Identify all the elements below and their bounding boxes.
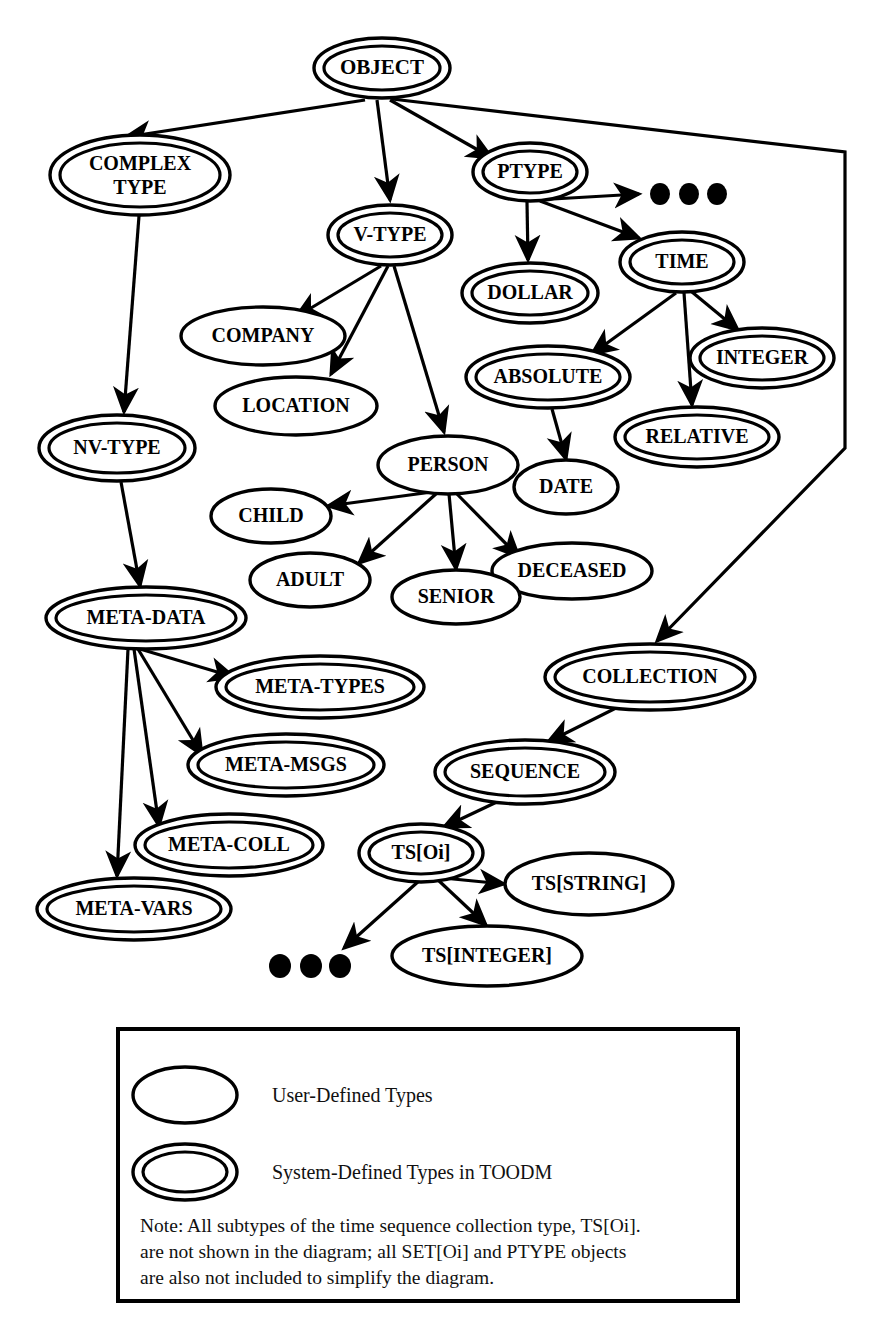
legend-symbol-ellipse [133, 1067, 237, 1123]
legend-symbol-inner-ellipse [143, 1152, 227, 1192]
legend-item-label: User-Defined Types [272, 1084, 433, 1107]
legend-item-system-defined: System-Defined Types in TOODM [133, 1144, 552, 1200]
diagram-canvas: OBJECTCOMPLEXTYPEPTYPEV-TYPEDOLLARTIMECO… [0, 0, 875, 1340]
legend-note-line: Note: All subtypes of the time sequence … [140, 1215, 641, 1236]
legend-note-line: are also not included to simplify the di… [140, 1267, 494, 1288]
legend-note-line: are not shown in the diagram; all SET[Oi… [140, 1241, 626, 1262]
legend-note: Note: All subtypes of the time sequence … [140, 1215, 641, 1288]
legend-item-label: System-Defined Types in TOODM [272, 1161, 552, 1184]
legend-panel: User-Defined TypesSystem-Defined Types i… [0, 0, 875, 1340]
legend-item-user-defined: User-Defined Types [133, 1067, 433, 1123]
